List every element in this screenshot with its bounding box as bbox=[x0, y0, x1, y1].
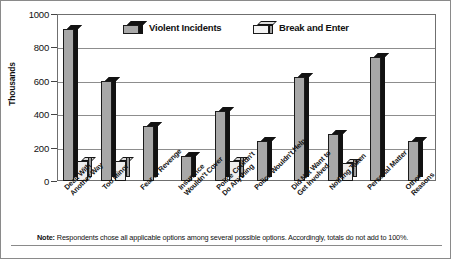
chart-note-prefix: Note: bbox=[37, 233, 55, 242]
bar-group bbox=[57, 14, 95, 181]
x-axis-labels: Dealt With Another WayToo MinorFear of R… bbox=[1, 182, 451, 234]
chart-note-text: Respondents chose all applicable options… bbox=[55, 233, 408, 242]
bar-group bbox=[133, 14, 171, 181]
y-axis-tick-label: 1000 bbox=[5, 9, 49, 20]
chart-figure: Thousands 02004006008001000 Violent Inci… bbox=[0, 0, 451, 259]
bar-violent-incidents bbox=[294, 73, 305, 181]
y-axis-tick-label: 800 bbox=[5, 42, 49, 53]
legend-label-break-and-enter: Break and Enter bbox=[279, 22, 349, 33]
chart-note: Note: Respondents chose all applicable o… bbox=[37, 233, 437, 242]
bar-swatch-gray-icon bbox=[123, 21, 143, 34]
legend-item-violent-incidents: Violent Incidents bbox=[123, 21, 221, 34]
bar-violent-incidents bbox=[370, 53, 381, 181]
legend-label-violent-incidents: Violent Incidents bbox=[149, 22, 221, 33]
y-axis: Thousands 02004006008001000 bbox=[1, 1, 57, 194]
y-axis-tick-label: 400 bbox=[5, 109, 49, 120]
bar-violent-incidents bbox=[63, 25, 74, 181]
bar-swatch-white-icon bbox=[253, 21, 273, 34]
bar-group bbox=[95, 14, 133, 181]
y-axis-tick-label: 600 bbox=[5, 76, 49, 87]
note-divider bbox=[11, 245, 442, 246]
y-axis-tick-label: 200 bbox=[5, 143, 49, 154]
legend-item-break-and-enter: Break and Enter bbox=[253, 21, 349, 34]
